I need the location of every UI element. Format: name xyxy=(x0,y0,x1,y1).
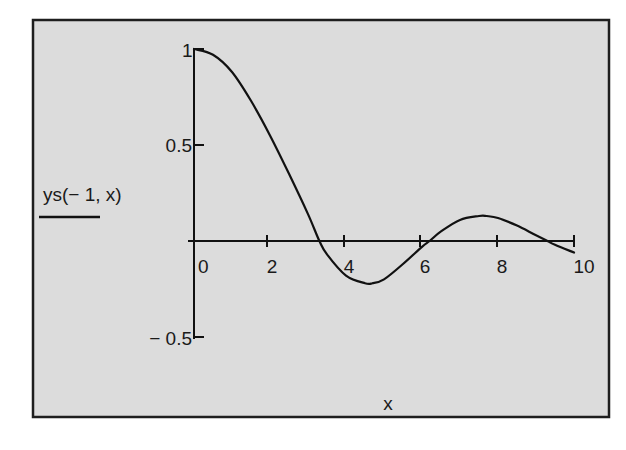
x-tick-label-8: 8 xyxy=(497,256,508,277)
x-tick-label-2: 2 xyxy=(267,256,278,277)
x-tick-label-6: 6 xyxy=(420,256,431,277)
y-tick-label-0.5: 0.5 xyxy=(166,135,192,156)
x-tick-label-10: 10 xyxy=(573,256,594,277)
plot-frame xyxy=(33,20,609,417)
plot-area: 1 0.5 − 0.5 0 2 4 6 8 10 ys(− 1, x) x xyxy=(0,0,626,450)
y-tick-label-neg0.5: − 0.5 xyxy=(149,328,192,349)
x-axis-title: x xyxy=(383,393,393,414)
x-tick-label-0: 0 xyxy=(198,256,209,277)
y-tick-label-1: 1 xyxy=(182,40,193,61)
legend-label: ys(− 1, x) xyxy=(43,184,122,205)
